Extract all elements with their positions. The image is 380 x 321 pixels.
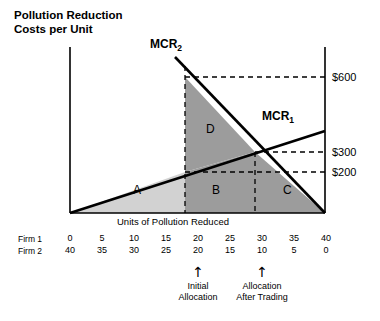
scale-value: 30	[252, 233, 272, 243]
chart-figure: Pollution Reduction Costs per Unit	[0, 0, 380, 321]
scale-value: 25	[156, 245, 176, 255]
mcr2-label: MCR2	[150, 38, 182, 54]
region-a-label: A	[133, 183, 141, 197]
x-axis-caption: Units of Pollution Reduced	[117, 216, 229, 227]
region-d-label: D	[206, 122, 215, 136]
scale-value: 5	[92, 233, 112, 243]
scale-table: Firm 1 Firm 2 0 5 10 15 20 25 30 35 40 4…	[0, 233, 380, 259]
scale-value: 15	[220, 245, 240, 255]
price-300-label: $300	[332, 146, 356, 158]
price-200-label: $200	[332, 166, 356, 178]
scale-row-label-firm1: Firm 1	[18, 234, 42, 244]
price-600-label: $600	[332, 71, 356, 83]
scale-value: 0	[60, 233, 80, 243]
scale-row-label-firm2: Firm 2	[18, 246, 42, 256]
scale-value: 10	[124, 233, 144, 243]
scale-value: 35	[92, 245, 112, 255]
scale-value: 5	[284, 245, 304, 255]
mcr1-label: MCR1	[262, 110, 294, 126]
trading-allocation-caption: Allocation After Trading	[222, 281, 302, 303]
scale-value: 30	[124, 245, 144, 255]
region-b-label: B	[212, 183, 220, 197]
trading-allocation-arrow-icon: ↑	[252, 265, 272, 279]
initial-allocation-arrow-icon: ↑	[188, 265, 208, 279]
scale-value: 20	[188, 233, 208, 243]
scale-value: 35	[284, 233, 304, 243]
scale-value: 10	[252, 245, 272, 255]
scale-value: 15	[156, 233, 176, 243]
scale-value: 40	[316, 233, 336, 243]
scale-value: 20	[188, 245, 208, 255]
region-c-label: C	[283, 183, 292, 197]
scale-value: 25	[220, 233, 240, 243]
scale-value: 0	[316, 245, 336, 255]
scale-value: 40	[60, 245, 80, 255]
